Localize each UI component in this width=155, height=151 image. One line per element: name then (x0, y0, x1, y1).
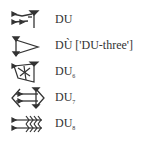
cuneiform-du6-icon (10, 60, 46, 84)
sign-label: DU8 (55, 116, 75, 135)
sign-label: DU6 (55, 64, 75, 83)
sign-row-du7: DU7 (0, 86, 155, 110)
cuneiform-du7-icon (10, 86, 46, 110)
sign-row-du6: DU6 (0, 60, 155, 84)
cuneiform-du8-icon (10, 112, 46, 136)
sign-label: DU (55, 12, 72, 26)
sign-label: DU7 (55, 90, 75, 109)
sign-row-du3: DÙ ['DU-three'] (0, 34, 155, 58)
cuneiform-du3-icon (10, 34, 46, 58)
sign-label: DÙ ['DU-three'] (55, 38, 133, 52)
sign-row-du: DU (0, 8, 155, 32)
cuneiform-du-icon (10, 8, 46, 32)
sign-row-du8: DU8 (0, 112, 155, 136)
